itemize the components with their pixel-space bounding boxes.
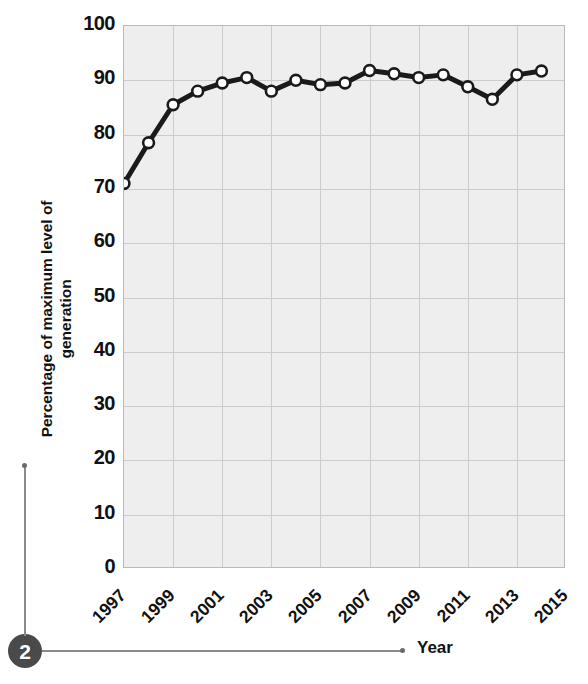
- x-axis-tick-label: 2013: [472, 585, 524, 637]
- data-point-marker: [462, 81, 473, 92]
- data-point-marker: [438, 69, 449, 80]
- callout-leader-to-ylabel: [24, 466, 26, 636]
- x-axis-tick-label: 1999: [128, 585, 180, 637]
- data-point-marker: [511, 69, 522, 80]
- y-axis-tick-label: 90: [94, 66, 115, 89]
- x-axis-tick-label: 2003: [226, 585, 278, 637]
- y-axis-tick-label: 20: [94, 446, 115, 469]
- y-axis-tick-label: 60: [94, 229, 115, 252]
- x-axis-tick-label: 2011: [423, 585, 475, 637]
- callout-leader-dot-ylabel: [22, 463, 27, 468]
- data-series-line: [124, 26, 565, 568]
- series-line: [124, 71, 541, 184]
- y-axis-tick-label: 100: [83, 12, 115, 35]
- x-axis-label: Year: [417, 638, 453, 658]
- plot-area: [123, 25, 565, 568]
- y-axis-tick-label: 30: [94, 392, 115, 415]
- callout-badge-2: 2: [8, 634, 42, 668]
- data-point-marker: [217, 78, 228, 89]
- y-axis-label-line1: Percentage of maximum level of: [38, 200, 55, 437]
- data-point-marker: [290, 75, 301, 86]
- data-point-marker: [389, 68, 400, 79]
- chart-figure: 0102030405060708090100 Percentage of max…: [0, 0, 588, 684]
- data-point-marker: [192, 86, 203, 97]
- y-axis-label-line2: generation: [57, 279, 74, 358]
- x-axis-tick-label: 1997: [79, 585, 131, 637]
- data-point-marker: [266, 86, 277, 97]
- data-point-marker: [168, 99, 179, 110]
- data-point-marker: [364, 65, 375, 76]
- data-point-marker: [124, 178, 129, 189]
- y-axis-tick-label: 50: [94, 284, 115, 307]
- y-axis-tick-label: 10: [94, 501, 115, 524]
- data-point-marker: [340, 78, 351, 89]
- x-axis-tick-label: 2005: [275, 585, 327, 637]
- data-point-marker: [487, 94, 498, 105]
- callout-leader-dot-xlabel: [400, 648, 405, 653]
- y-axis-tick-label: 80: [94, 121, 115, 144]
- data-point-marker: [241, 72, 252, 83]
- y-axis-tick-label: 0: [104, 555, 115, 578]
- x-axis-tick-label: 2015: [521, 585, 573, 637]
- callout-leader-to-xlabel: [42, 650, 403, 652]
- x-axis-tick-label: 2009: [373, 585, 425, 637]
- y-axis-tick-label: 40: [94, 338, 115, 361]
- data-point-marker: [143, 137, 154, 148]
- data-point-marker: [413, 72, 424, 83]
- x-axis-tick-label: 2001: [177, 585, 229, 637]
- data-point-marker: [315, 79, 326, 90]
- y-axis-label: Percentage of maximum level of generatio…: [38, 169, 76, 469]
- data-point-marker: [536, 66, 547, 77]
- y-axis-tick-label: 70: [94, 175, 115, 198]
- x-axis-tick-label: 2007: [324, 585, 376, 637]
